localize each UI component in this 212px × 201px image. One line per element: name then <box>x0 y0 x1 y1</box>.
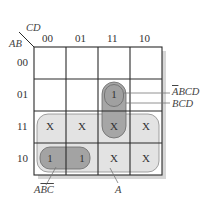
row-var-label: AB <box>9 38 22 49</box>
cell-10-01: 1 <box>66 152 98 164</box>
group-label-abar-bcd: ABCD <box>172 86 199 97</box>
row-header-11: 11 <box>17 120 28 132</box>
col-header-10: 10 <box>139 32 150 44</box>
col-header-11: 11 <box>107 32 118 44</box>
cell-10-10: X <box>130 152 162 164</box>
cell-11-11: X <box>98 120 130 132</box>
group-label-a: A <box>115 184 121 195</box>
row-header-01: 01 <box>17 88 28 100</box>
cell-10-11: X <box>98 152 130 164</box>
cell-10-00: 1 <box>34 152 66 164</box>
cell-11-01: X <box>66 120 98 132</box>
cell-11-10: X <box>130 120 162 132</box>
row-header-10: 10 <box>17 152 28 164</box>
label-c-bar: C <box>47 184 54 195</box>
group-label-a-bbar-cbar: ABC <box>34 184 54 195</box>
col-header-00: 00 <box>42 32 53 44</box>
cell-11-00: X <box>34 120 66 132</box>
col-var-label: CD <box>26 22 41 33</box>
cell-01-11: 1 <box>98 88 130 100</box>
label-bcd-part: BCD <box>178 86 199 97</box>
row-header-00: 00 <box>17 56 28 68</box>
group-label-bcd: BCD <box>172 98 193 109</box>
col-header-01: 01 <box>75 32 86 44</box>
